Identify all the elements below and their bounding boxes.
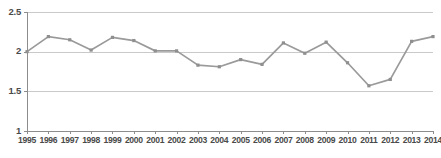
data-point-2011	[367, 84, 370, 87]
ytick-labels-group: 11.522.5	[8, 6, 22, 136]
ytick-label-2: 2	[16, 45, 21, 56]
data-point-2014	[431, 35, 434, 38]
xtick-label-2002: 2002	[168, 135, 186, 145]
chart-canvas: 11.522.5 1995199619971998199920002001200…	[0, 0, 441, 158]
data-point-2008	[303, 52, 306, 55]
xtick-label-2005: 2005	[232, 135, 250, 145]
data-point-1997	[68, 38, 71, 41]
data-point-2007	[282, 41, 285, 44]
gridlines-group	[27, 13, 433, 132]
xtick-label-2004: 2004	[210, 135, 228, 145]
series-group	[25, 35, 434, 87]
data-point-2013	[410, 40, 413, 43]
xtick-label-2009: 2009	[317, 135, 335, 145]
xtick-label-2010: 2010	[339, 135, 357, 145]
axes-group	[24, 12, 434, 134]
xtick-label-2008: 2008	[296, 135, 314, 145]
data-point-2010	[346, 61, 349, 64]
series-line-1	[27, 37, 433, 86]
data-point-2006	[260, 63, 263, 66]
data-point-2001	[154, 49, 157, 52]
xtick-label-2013: 2013	[403, 135, 421, 145]
data-point-2002	[175, 49, 178, 52]
ytick-label-1: 1	[16, 125, 22, 136]
xtick-label-1997: 1997	[61, 135, 79, 145]
data-point-2005	[239, 58, 242, 61]
xtick-label-2000: 2000	[125, 135, 143, 145]
xtick-label-2014: 2014	[424, 135, 441, 145]
data-point-1996	[47, 35, 50, 38]
data-point-1995	[25, 50, 28, 53]
ytick-label-1_5: 1.5	[8, 85, 22, 96]
ytick-label-2_5: 2.5	[8, 6, 22, 17]
data-point-2004	[218, 65, 221, 68]
xtick-label-2001: 2001	[146, 135, 164, 145]
xtick-label-1995: 1995	[18, 135, 36, 145]
data-point-1999	[111, 36, 114, 39]
data-point-2000	[132, 39, 135, 42]
xtick-label-2011: 2011	[360, 135, 378, 145]
data-point-2012	[389, 78, 392, 81]
xtick-label-1998: 1998	[82, 135, 100, 145]
xtick-label-2003: 2003	[189, 135, 207, 145]
data-point-2009	[325, 41, 328, 44]
xtick-label-1996: 1996	[39, 135, 57, 145]
line-chart: 11.522.5 1995199619971998199920002001200…	[0, 0, 441, 158]
xtick-label-2007: 2007	[274, 135, 292, 145]
data-point-1998	[90, 48, 93, 51]
xtick-label-2006: 2006	[253, 135, 271, 145]
xtick-label-1999: 1999	[104, 135, 122, 145]
data-point-2003	[196, 64, 199, 67]
xtick-label-2012: 2012	[381, 135, 399, 145]
xtick-labels-group: 1995199619971998199920002001200220032004…	[18, 135, 441, 145]
